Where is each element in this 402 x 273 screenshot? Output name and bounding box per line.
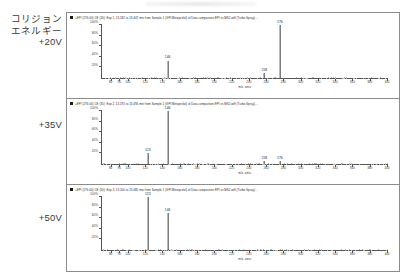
- x-tick-label: 120: [143, 81, 148, 84]
- baseline-noise: [341, 249, 342, 250]
- x-tick-label: 400: [384, 253, 389, 256]
- x-tick-label: 360: [350, 81, 355, 84]
- baseline-noise: [136, 163, 137, 164]
- y-tick: [99, 131, 102, 132]
- baseline-noise: [349, 163, 350, 164]
- x-tick-label: 400: [384, 167, 389, 170]
- ce-heading-line-1: コリジョン: [11, 13, 62, 25]
- spectrum-panel-50v[interactable]: +EPI (276.00) CE (50): Exp 3, 13.200 to …: [66, 184, 400, 272]
- baseline-noise: [176, 249, 177, 250]
- ce-value-50v: +50V: [39, 212, 62, 224]
- baseline-noise: [296, 77, 297, 78]
- baseline-noise: [312, 163, 313, 164]
- spectrum-peak[interactable]: [264, 161, 265, 164]
- x-tick-label: 320: [315, 81, 320, 84]
- peak-label: 276: [277, 21, 283, 25]
- baseline-noise: [275, 77, 276, 78]
- baseline-noise: [238, 164, 239, 165]
- x-tick-label: 240: [246, 167, 251, 170]
- y-tick: [99, 45, 102, 46]
- baseline-noise: [180, 163, 181, 164]
- baseline-noise: [127, 250, 128, 251]
- spectrum-peak[interactable]: [167, 213, 168, 250]
- x-tick-label: 280: [281, 253, 286, 256]
- spectrum-panel-20v[interactable]: +EPI (276.00) CE (20): Exp 1, 13.182 to …: [66, 12, 400, 98]
- x-axis-title-20v: m/z, amu: [238, 86, 251, 89]
- baseline-noise: [205, 77, 206, 78]
- spectrum-peak[interactable]: [167, 61, 168, 78]
- spectrum-peak[interactable]: [280, 25, 281, 78]
- square-marker-icon: [70, 102, 73, 105]
- baseline-noise: [230, 77, 231, 78]
- x-tick-label: 140: [160, 253, 165, 256]
- x-tick-label: 90: [118, 253, 121, 256]
- x-tick-label: 360: [350, 253, 355, 256]
- y-tick: [99, 66, 102, 67]
- x-tick-label: 260: [263, 253, 268, 256]
- baseline-noise: [303, 78, 304, 79]
- y-tick-label: 40%: [92, 225, 98, 228]
- collision-energy-label-20v: コリジョン エネルギー +20V: [11, 13, 62, 48]
- baseline-noise: [182, 77, 183, 78]
- spectrum-peak[interactable]: [264, 73, 265, 78]
- x-tick-label: 340: [333, 81, 338, 84]
- baseline-noise: [129, 77, 130, 78]
- y-tick: [99, 196, 102, 197]
- baseline-noise: [189, 249, 190, 250]
- spectrum-peak[interactable]: [280, 161, 281, 164]
- x-tick-label: 180: [194, 253, 199, 256]
- baseline-noise: [205, 249, 206, 250]
- slide-canvas: コリジョン エネルギー +20V +35V +50V +EPI (276.00)…: [0, 0, 402, 273]
- baseline-noise: [312, 77, 313, 78]
- x-tick-label: 240: [246, 253, 251, 256]
- y-tick: [99, 228, 102, 229]
- x-tick-label: 180: [194, 167, 199, 170]
- y-tick-label: 20%: [92, 236, 98, 239]
- peak-label: 123: [145, 193, 151, 197]
- ce-value-35v: +35V: [39, 119, 62, 131]
- baseline-noise: [345, 249, 346, 250]
- plot-wrap-50v: m/z, amu 20%40%60%80%100%809010012014016…: [67, 193, 395, 265]
- baseline-noise: [160, 249, 161, 250]
- baseline-noise: [125, 163, 126, 164]
- x-tick-label: 120: [143, 167, 148, 170]
- y-tick: [99, 121, 102, 122]
- baseline-noise: [260, 249, 261, 250]
- baseline-noise: [172, 163, 173, 164]
- baseline-noise: [187, 249, 188, 250]
- x-tick-label: 100: [125, 253, 130, 256]
- ce-value-20v: +20V: [11, 36, 62, 48]
- plot-area-20v[interactable]: m/z, amu 20%40%60%80%100%809010012014016…: [101, 25, 387, 79]
- y-tick-label: 60%: [92, 215, 98, 218]
- y-tick-label: 100%: [90, 22, 98, 25]
- baseline-noise: [295, 164, 296, 165]
- spectrum-peak[interactable]: [167, 111, 168, 164]
- y-tick: [99, 24, 102, 25]
- baseline-noise: [349, 249, 350, 250]
- plot-area-35v[interactable]: m/z, amu 20%40%60%80%100%809010012014016…: [101, 111, 387, 165]
- baseline-noise: [207, 163, 208, 164]
- panel-title-20v: +EPI (276.00) CE (20): Exp 1, 13.182 to …: [67, 13, 399, 21]
- y-tick-label: 100%: [90, 194, 98, 197]
- baseline-noise: [218, 249, 219, 250]
- x-tick-label: 240: [246, 81, 251, 84]
- square-marker-icon: [70, 188, 73, 191]
- baseline-noise: [370, 249, 371, 250]
- y-tick-label: 40%: [92, 139, 98, 142]
- x-tick-label: 200: [212, 81, 217, 84]
- spectrum-panel-35v[interactable]: +EPI (276.00) CE (35): Exp 2, 13.191 to …: [66, 98, 400, 184]
- peak-label: 146: [165, 56, 171, 60]
- x-tick-label: 260: [263, 167, 268, 170]
- plot-area-50v[interactable]: m/z, amu 20%40%60%80%100%809010012014016…: [101, 197, 387, 251]
- baseline-noise: [218, 77, 219, 78]
- baseline-noise: [123, 249, 124, 250]
- spectrum-peak[interactable]: [147, 153, 148, 164]
- baseline-noise: [344, 77, 345, 78]
- x-tick-label: 120: [143, 253, 148, 256]
- peak-label: 258: [262, 69, 268, 73]
- spectrum-peak[interactable]: [147, 197, 148, 250]
- x-tick-label: 380: [367, 253, 372, 256]
- x-tick-label: 200: [212, 253, 217, 256]
- panel-title-50v: +EPI (276.00) CE (50): Exp 3, 13.200 to …: [67, 185, 399, 193]
- baseline-noise: [222, 249, 223, 250]
